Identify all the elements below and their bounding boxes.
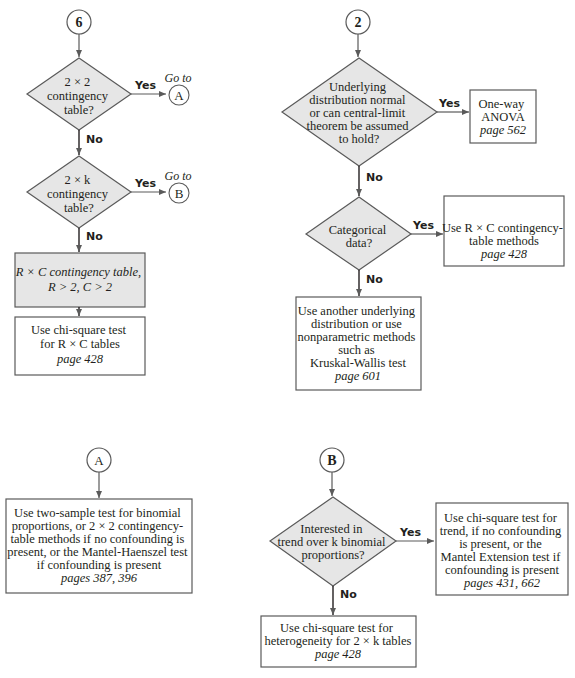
nonparametric-line: Use another underlying xyxy=(298,304,416,318)
nonparametric-line: nonparametric methods xyxy=(298,330,416,344)
decision-categorical: Categorical data? xyxy=(306,197,411,270)
svg-text:Use chi-square test for: Use chi-square test for R × C tables xyxy=(31,323,129,351)
decision-normal-line: to hold? xyxy=(339,132,380,146)
nonparametric-box: Use another underlying distribution or u… xyxy=(296,297,421,390)
connector-B-ref-label: B xyxy=(175,186,184,201)
trend-line: is present, or the xyxy=(459,537,542,551)
rxc-table-box: R × C contingency table, R > 2, C > 2 xyxy=(15,253,145,307)
decision-normal-line: or can central-limit xyxy=(310,106,406,120)
decision-normal-line: Underlying xyxy=(329,80,387,94)
two-sample-box: Use two-sample test for binomial proport… xyxy=(6,499,192,593)
no-label: No xyxy=(340,588,357,601)
trend-line: Use chi-square test for xyxy=(444,511,558,525)
yes-label: Yes xyxy=(438,97,460,110)
heterogeneity-box: Use chi-square test for heterogeneity fo… xyxy=(261,616,416,667)
goto-label: Go to xyxy=(165,71,192,85)
trend-line: confounding is present xyxy=(445,563,559,577)
decision-trend-line: trend over k binomial xyxy=(277,535,385,549)
decision-trend: Interested in trend over k binomial prop… xyxy=(270,497,396,586)
nonparametric-line: distribution or use xyxy=(311,317,402,331)
connector-2: 2 xyxy=(346,10,370,34)
goto-label: Go to xyxy=(165,169,192,183)
chi-square-rxc-line: for R × C tables xyxy=(40,337,120,351)
svg-text:Use another underlying d: Use another underlying distribution or u… xyxy=(298,304,419,370)
decision-2xk-line: table? xyxy=(64,201,94,215)
anova-line: One-way xyxy=(479,97,526,111)
decision-normal-line: distribution normal xyxy=(309,93,406,107)
yes-label: Yes xyxy=(134,177,156,190)
decision-2x2-line: 2 × 2 xyxy=(65,75,91,89)
chi-square-rxc-line: Use chi-square test xyxy=(31,323,127,337)
connector-B: B xyxy=(320,448,344,472)
rxc-methods-line: table methods xyxy=(469,234,539,248)
page-ref: page 428 xyxy=(480,247,528,261)
yes-label: Yes xyxy=(412,219,434,232)
chi-square-rxc-box: Use chi-square test for R × C tables pag… xyxy=(15,317,145,375)
rxc-methods-box: Use R × C contingency- table methods pag… xyxy=(442,196,566,266)
decision-2xk: 2 × k contingency table? xyxy=(27,156,131,228)
connector-A: A xyxy=(87,448,111,472)
decision-trend-line: proportions? xyxy=(301,548,365,562)
yes-label: Yes xyxy=(399,526,421,539)
two-sample-line: table methods if no confounding is xyxy=(10,532,184,546)
nonparametric-line: such as xyxy=(338,343,375,357)
svg-text:One-way ANOVA: One-way ANOVA xyxy=(479,97,528,124)
connector-A-ref-label: A xyxy=(174,88,184,103)
no-label: No xyxy=(366,171,383,184)
connector-6: 6 xyxy=(67,10,91,34)
page-ref: page 601 xyxy=(334,369,381,383)
two-sample-line: present, or the Mantel-Haenszel test xyxy=(7,545,188,559)
rxc-methods-line: Use R × C contingency- xyxy=(442,221,563,235)
svg-text:Use chi-square test for: Use chi-square test for heterogeneity fo… xyxy=(265,621,412,648)
flowchart: 6 2 × 2 contingency table? Yes Go to A N… xyxy=(0,0,575,678)
heterogeneity-line: heterogeneity for 2 × k tables xyxy=(265,634,412,648)
page-ref: pages 387, 396 xyxy=(60,571,138,585)
decision-2x2-line: contingency xyxy=(47,89,109,103)
connector-A-label: A xyxy=(94,453,104,468)
anova-line: ANOVA xyxy=(481,110,525,124)
no-label: No xyxy=(366,273,383,286)
page-ref: page 428 xyxy=(56,352,104,366)
decision-categorical-line: data? xyxy=(346,236,373,250)
decision-2x2-line: table? xyxy=(64,103,94,117)
decision-normal: Underlying distribution normal or can ce… xyxy=(282,58,437,166)
connector-A-ref: A xyxy=(169,85,189,105)
connector-B-label: B xyxy=(327,453,336,468)
rxc-table-line: R × C contingency table, xyxy=(15,265,141,279)
yes-label: Yes xyxy=(134,79,156,92)
decision-trend-line: Interested in xyxy=(300,522,363,536)
two-sample-line: if confounding is present xyxy=(37,558,162,572)
decision-2x2: 2 × 2 contingency table? xyxy=(27,58,131,130)
heterogeneity-line: Use chi-square test for xyxy=(280,621,394,635)
two-sample-line: Use two-sample test for binomial xyxy=(14,506,181,520)
decision-2xk-line: contingency xyxy=(47,187,109,201)
two-sample-line: proportions, or 2 × 2 contingency- xyxy=(12,519,184,533)
trend-line: trend, if no confounding xyxy=(440,524,562,538)
connector-6-label: 6 xyxy=(76,15,83,30)
decision-normal-line: theorem be assumed xyxy=(306,119,409,133)
trend-line: Mantel Extension test if xyxy=(441,550,562,564)
decision-categorical-line: Categorical xyxy=(329,223,387,237)
no-label: No xyxy=(86,230,103,243)
no-label: No xyxy=(86,133,103,146)
nonparametric-line: Kruskal-Wallis test xyxy=(310,356,406,370)
page-ref: pages 431, 662 xyxy=(463,576,540,590)
rxc-table-line: R > 2, C > 2 xyxy=(47,280,112,294)
trend-box: Use chi-square test for trend, if no con… xyxy=(436,503,568,595)
page-ref: page 562 xyxy=(479,123,526,137)
decision-2xk-line: 2 × k xyxy=(65,173,92,187)
connector-B-ref: B xyxy=(169,183,189,203)
connector-2-label: 2 xyxy=(355,15,362,30)
anova-box: One-way ANOVA page 562 xyxy=(470,90,536,143)
page-ref: page 428 xyxy=(314,647,362,661)
